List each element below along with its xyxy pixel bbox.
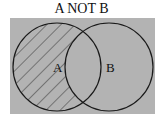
set-b-label: B	[106, 60, 115, 75]
set-a-label: A	[53, 60, 63, 75]
venn-diagram: A B	[0, 0, 163, 121]
